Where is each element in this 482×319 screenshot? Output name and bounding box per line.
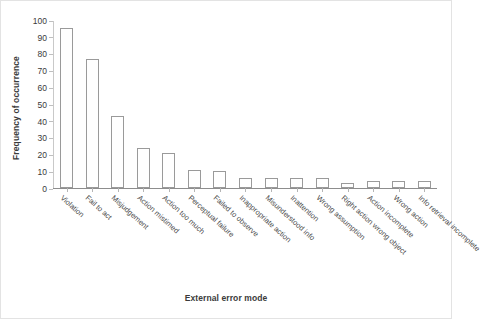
bar: [60, 28, 73, 188]
x-tick-mark: [424, 188, 425, 192]
bar-series: [54, 21, 437, 188]
x-tick-mark: [169, 188, 170, 192]
x-tick-mark: [67, 188, 68, 192]
x-tick-label: Fail to act: [84, 194, 113, 221]
x-tick-label: Action incomplete: [366, 194, 415, 239]
bar: [213, 171, 226, 188]
bar-slot: [411, 21, 437, 188]
bar: [367, 181, 380, 188]
bar-slot: [80, 21, 106, 188]
y-tick-mark: [49, 172, 53, 173]
x-tick-mark: [92, 188, 93, 192]
bar: [392, 181, 405, 188]
x-tick-mark: [271, 188, 272, 192]
y-axis-title: Frequency of occurrence: [5, 13, 27, 203]
plot-area: 0102030405060708090100: [53, 21, 437, 189]
y-tick-mark: [49, 37, 53, 38]
bar-slot: [360, 21, 386, 188]
x-tick-mark: [373, 188, 374, 192]
x-tick-mark: [322, 188, 323, 192]
bar: [162, 153, 175, 188]
x-tick-label: Failed to observe: [212, 194, 260, 238]
x-tick-mark: [297, 188, 298, 192]
x-tick-mark: [118, 188, 119, 192]
y-tick-mark: [49, 189, 53, 190]
bar: [188, 170, 201, 188]
bar: [239, 178, 252, 188]
bar: [265, 178, 278, 188]
x-axis-tick-labels: ViolationFail to actMisjudgementAction m…: [53, 194, 437, 286]
y-tick-mark: [49, 155, 53, 156]
bar-slot: [156, 21, 182, 188]
bar-slot: [182, 21, 208, 188]
x-tick-mark: [220, 188, 221, 192]
bar: [111, 116, 124, 188]
bar-slot: [386, 21, 412, 188]
x-tick-mark: [194, 188, 195, 192]
bar: [418, 181, 431, 188]
bar-slot: [207, 21, 233, 188]
y-tick-mark: [49, 71, 53, 72]
x-axis-title: External error mode: [1, 293, 451, 303]
bar-slot: [131, 21, 157, 188]
x-tick-mark: [245, 188, 246, 192]
y-tick-mark: [49, 21, 53, 22]
bar: [137, 148, 150, 188]
bar: [316, 178, 329, 188]
bar-slot: [284, 21, 310, 188]
y-tick-mark: [49, 54, 53, 55]
x-tick-mark: [143, 188, 144, 192]
bar-slot: [258, 21, 284, 188]
bar-slot: [105, 21, 131, 188]
bar-slot: [309, 21, 335, 188]
bar-slot: [233, 21, 259, 188]
x-tick-mark: [348, 188, 349, 192]
y-tick-mark: [49, 105, 53, 106]
x-tick-mark: [399, 188, 400, 192]
bar-slot: [335, 21, 361, 188]
bar: [290, 178, 303, 188]
x-tick-label: Violation: [59, 194, 85, 219]
y-tick-mark: [49, 88, 53, 89]
y-tick-mark: [49, 121, 53, 122]
y-tick-mark: [49, 138, 53, 139]
bar: [86, 59, 99, 188]
bar-slot: [54, 21, 80, 188]
x-tick-label: Perceptual failure: [187, 194, 235, 239]
